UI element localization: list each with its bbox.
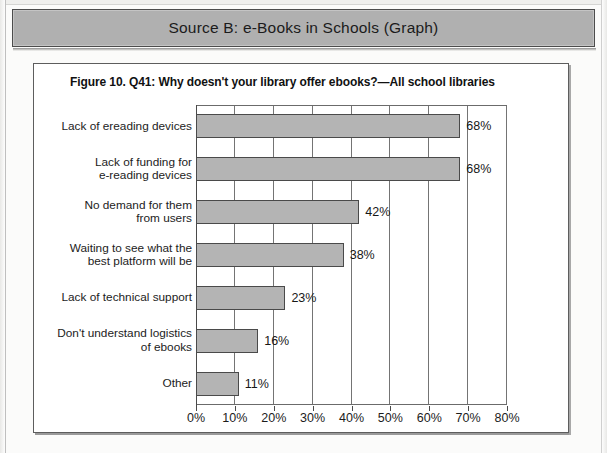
x-tick-label: 10% bbox=[222, 411, 247, 425]
bar-value-label: 68% bbox=[460, 162, 491, 176]
bar bbox=[196, 286, 285, 310]
bar bbox=[196, 157, 460, 181]
category-label: No demand for them from users bbox=[34, 199, 192, 226]
x-tick-label: 30% bbox=[300, 411, 325, 425]
bar-row: 23% bbox=[196, 286, 507, 310]
bar-chart: Lack of ereading devicesLack of funding … bbox=[34, 64, 570, 434]
bar-value-label: 68% bbox=[460, 119, 491, 133]
category-axis-labels: Lack of ereading devicesLack of funding … bbox=[34, 105, 192, 405]
x-tick-label: 20% bbox=[261, 411, 286, 425]
bar-row: 16% bbox=[196, 329, 507, 353]
bar bbox=[196, 114, 460, 138]
bar-value-label: 23% bbox=[285, 291, 316, 305]
x-tick-label: 50% bbox=[378, 411, 403, 425]
category-label: Waiting to see what the best platform wi… bbox=[34, 242, 192, 269]
x-tick-label: 80% bbox=[494, 411, 519, 425]
category-label: Lack of funding for e-reading devices bbox=[34, 156, 192, 183]
x-tick-label: 60% bbox=[417, 411, 442, 425]
page-edge-right bbox=[601, 0, 607, 453]
bar bbox=[196, 372, 239, 396]
bar-value-label: 11% bbox=[239, 377, 269, 391]
source-banner: Source B: e-Books in Schools (Graph) bbox=[12, 9, 595, 47]
bar bbox=[196, 200, 359, 224]
category-label: Lack of technical support bbox=[34, 291, 192, 305]
x-tick-label: 0% bbox=[187, 411, 205, 425]
x-tick-label: 70% bbox=[456, 411, 481, 425]
page-edge-left bbox=[0, 0, 6, 453]
bar-value-label: 38% bbox=[344, 248, 375, 262]
category-label: Don't understand logistics of ebooks bbox=[34, 327, 192, 354]
category-label: Other bbox=[34, 377, 192, 391]
source-banner-title: Source B: e-Books in Schools (Graph) bbox=[169, 19, 439, 37]
source-banner-shadow bbox=[13, 48, 596, 51]
scanned-page: Source B: e-Books in Schools (Graph) Fig… bbox=[0, 0, 607, 453]
bar-row: 68% bbox=[196, 157, 507, 181]
category-label: Lack of ereading devices bbox=[34, 120, 192, 134]
bar-row: 11% bbox=[196, 372, 507, 396]
figure-box: Figure 10. Q41: Why doesn't your library… bbox=[33, 63, 569, 433]
bar bbox=[196, 329, 258, 353]
bar-value-label: 42% bbox=[359, 205, 390, 219]
bar bbox=[196, 243, 344, 267]
bar-row: 68% bbox=[196, 114, 507, 138]
bar-value-label: 16% bbox=[258, 334, 289, 348]
x-tick-label: 40% bbox=[339, 411, 364, 425]
bar-row: 42% bbox=[196, 200, 507, 224]
bar-row: 38% bbox=[196, 243, 507, 267]
page-edge-top bbox=[0, 0, 607, 5]
